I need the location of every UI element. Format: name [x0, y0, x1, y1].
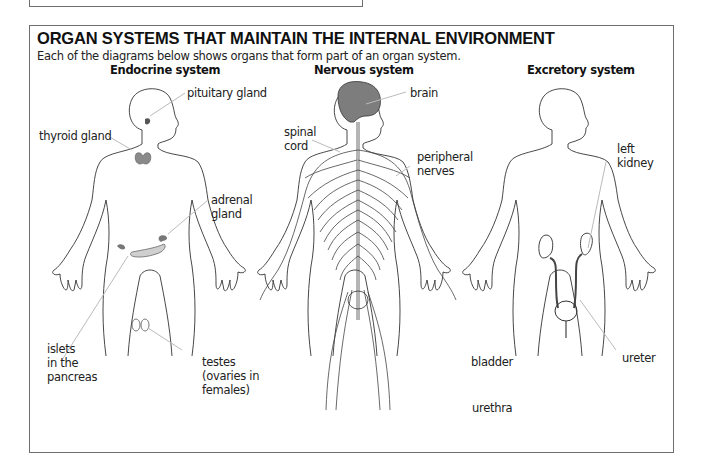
adrenal-gland-right [159, 235, 167, 242]
adrenal-gland-left [117, 244, 125, 249]
figures [0, 0, 702, 471]
label-islets-pancreas: islets in the pancreas [47, 342, 97, 384]
label-adrenal-gland: adrenal gland [211, 193, 252, 221]
pituitary-gland-shape [145, 118, 150, 124]
label-bladder: bladder [471, 355, 513, 369]
pancreas-shape [131, 244, 166, 257]
testis-right [141, 319, 149, 331]
label-pituitary-gland: pituitary gland [187, 86, 267, 100]
label-spinal-cord: spinal cord [284, 125, 316, 153]
testis-left [132, 319, 140, 331]
label-peripheral-nerves: peripheral nerves [417, 150, 473, 178]
label-thyroid-gland: thyroid gland [39, 129, 112, 143]
bladder-shape [555, 301, 577, 321]
label-left-kidney: left kidney [617, 142, 654, 170]
label-brain: brain [410, 86, 438, 100]
thyroid-gland-shape [135, 153, 151, 164]
label-ureter: ureter [622, 351, 655, 365]
right-ureter [550, 258, 558, 308]
excretory-body-outline [463, 89, 656, 356]
label-urethra: urethra [472, 401, 512, 415]
left-ureter [574, 254, 582, 308]
nervous-pelvis-outline [348, 291, 368, 309]
right-kidney-shape [539, 235, 553, 258]
label-testes: testes (ovaries in females) [202, 355, 259, 397]
